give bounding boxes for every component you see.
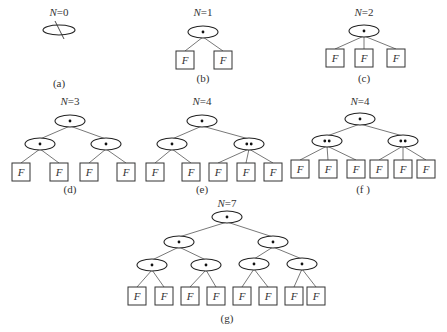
tree-node [388, 135, 418, 147]
tree-edge [190, 270, 206, 287]
panel-title: N=1 [192, 6, 212, 18]
tree-edge [172, 126, 202, 139]
leaf-label: F [296, 163, 304, 175]
tree-edge [249, 149, 273, 163]
leaf-label: F [264, 290, 272, 302]
leaf-label: F [375, 163, 383, 175]
leaf-box: F [347, 160, 365, 178]
tree-edge [246, 149, 249, 163]
tree-edge [273, 247, 302, 259]
tree-edge [152, 270, 164, 287]
panel-caption: (f ) [356, 183, 370, 196]
leaf-label: F [399, 163, 407, 175]
dot-icon [272, 241, 275, 244]
tree-edge [40, 126, 70, 139]
tree-edge [302, 269, 316, 287]
tree-edge [70, 126, 106, 139]
tree-edge [89, 149, 106, 163]
dot-icon [201, 120, 204, 123]
panel-caption: (g) [221, 312, 234, 325]
tree-edge [106, 149, 126, 163]
panel-title: N=7 [216, 197, 237, 209]
leaf-box: F [80, 163, 98, 181]
tree-node [188, 26, 218, 38]
panel-title: N=2 [353, 6, 373, 18]
leaf-label: F [422, 163, 430, 175]
panel-caption: (a) [53, 77, 66, 90]
panel-caption: (c) [358, 72, 371, 85]
leaf-label: F [238, 290, 246, 302]
leaf-box: F [50, 163, 68, 181]
tree-edge [327, 146, 356, 160]
tree-diagram-figure: N=0(a)N=1FF(b)N=2FFF(c)N=3FFFF(d)N=4FFFF… [0, 0, 447, 332]
leaf-box: F [155, 287, 173, 305]
leaf-box: F [214, 51, 232, 69]
leaf-box: F [259, 287, 277, 305]
leaf-box: F [146, 163, 164, 181]
panel-b: N=1FF(b) [176, 6, 232, 85]
tree-edge [300, 146, 327, 160]
leaf-label: F [17, 166, 25, 178]
dot-icon [404, 140, 407, 143]
leaf-label: F [290, 290, 298, 302]
leaf-box: F [182, 163, 200, 181]
tree-node [91, 138, 121, 150]
dot-icon [399, 140, 402, 143]
tree-node [187, 115, 217, 127]
dot-icon [151, 264, 154, 267]
tree-node [212, 211, 242, 223]
dot-icon [202, 31, 205, 34]
leaf-label: F [151, 166, 159, 178]
panel-title: N=4 [191, 95, 212, 107]
leaf-box: F [355, 49, 373, 67]
leaf-box: F [319, 160, 337, 178]
dot-icon [250, 143, 253, 146]
leaf-label: F [214, 166, 222, 178]
dot-icon [205, 264, 208, 267]
leaf-label: F [187, 166, 195, 178]
dot-icon [253, 263, 256, 266]
dot-icon [245, 143, 248, 146]
dot-icon [301, 263, 304, 266]
tree-edge [379, 146, 403, 160]
dot-icon [105, 143, 108, 146]
tree-edge [137, 270, 152, 287]
leaf-label: F [219, 54, 227, 66]
leaf-label: F [352, 163, 360, 175]
dot-icon [178, 241, 181, 244]
tree-node [55, 115, 85, 127]
tree-edge [254, 247, 273, 259]
leaf-box: F [370, 160, 388, 178]
panel-f: N=4FFFFFF(f ) [291, 95, 435, 196]
tree-edge [403, 146, 426, 160]
dot-icon [363, 30, 366, 33]
leaf-box: F [209, 163, 227, 181]
tree-node [164, 236, 194, 248]
tree-edge [21, 149, 40, 163]
leaf-label: F [331, 52, 339, 64]
tree-edge [227, 222, 273, 237]
leaf-label: F [242, 166, 250, 178]
leaf-label: F [212, 290, 220, 302]
leaf-label: F [133, 290, 141, 302]
leaf-label: F [269, 166, 277, 178]
dot-icon [39, 143, 42, 146]
tree-node [349, 25, 379, 37]
panel-caption: (d) [64, 183, 77, 196]
leaf-box: F [307, 287, 325, 305]
leaf-box: F [181, 287, 199, 305]
tree-edge [172, 149, 191, 163]
tree-node [312, 135, 342, 147]
leaf-box: F [417, 160, 435, 178]
tree-edge [179, 222, 227, 237]
leaf-box: F [117, 163, 135, 181]
tree-edge [364, 36, 396, 49]
tree-node [234, 138, 264, 150]
panel-title: N=0 [48, 6, 69, 18]
tree-node [287, 258, 317, 270]
tree-edge [179, 247, 206, 260]
leaf-box: F [291, 160, 309, 178]
panel-title: N=4 [349, 95, 370, 107]
panel-e: N=4FFFFF(e) [146, 95, 282, 196]
tree-node [239, 258, 269, 270]
